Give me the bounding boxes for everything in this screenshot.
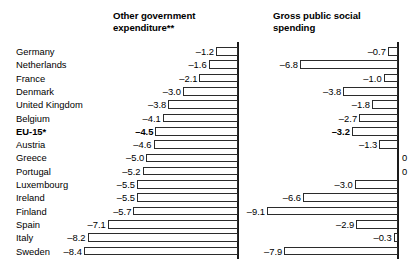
bar-value-panel-2: 0 [402, 165, 407, 178]
bar-value-panel-2: –6.8 [0, 58, 298, 71]
bar-value-panel-2: –0.3 [0, 231, 392, 244]
bar-panel-2 [267, 207, 398, 216]
bar-value-panel-1: –5.2 [0, 165, 141, 178]
bar-value-panel-2: –2.7 [0, 112, 357, 125]
table-row: Luxembourg–5.5–3.0 [0, 178, 420, 191]
bar-value-panel-2: –3.8 [0, 85, 341, 98]
bar-panel-2 [384, 74, 398, 83]
bar-panel-2 [388, 47, 398, 56]
bar-panel-2 [303, 193, 398, 202]
bar-panel-2 [343, 87, 398, 96]
table-row: Finland–5.7–9.1 [0, 205, 420, 218]
bar-value-panel-2: –6.6 [0, 191, 301, 204]
table-row: United Kingdom–3.8–1.8 [0, 98, 420, 111]
table-row: France–2.1–1.0 [0, 72, 420, 85]
table-row: Denmark–3.0–3.8 [0, 85, 420, 98]
panel-1-title: Other government expenditure** [113, 10, 263, 33]
table-row: Italy–8.2–0.3 [0, 231, 420, 244]
bar-panel-2 [300, 60, 398, 69]
bar-value-panel-2: –1.0 [0, 72, 382, 85]
chart-figure: Other government expenditure** Gross pub… [0, 0, 420, 269]
table-row: Austria–4.6–1.3 [0, 138, 420, 151]
bar-value-panel-2: –9.1 [0, 205, 265, 218]
table-row: Belgium–4.1–2.7 [0, 112, 420, 125]
table-row: Sweden–8.4–7.9 [0, 245, 420, 258]
bar-value-panel-2: –1.3 [0, 138, 377, 151]
bar-panel-2 [355, 180, 398, 189]
bar-value-panel-2: 0 [402, 151, 407, 164]
table-row: Spain–7.1–2.9 [0, 218, 420, 231]
bar-value-panel-2: –2.9 [0, 218, 354, 231]
table-row: Ireland–5.5–6.6 [0, 191, 420, 204]
bar-panel-2 [284, 247, 398, 256]
table-row: Portugal–5.20 [0, 165, 420, 178]
table-row: Germany–1.2–0.7 [0, 45, 420, 58]
bar-value-panel-2: –0.7 [0, 45, 386, 58]
bar-value-panel-2: –1.8 [0, 98, 370, 111]
table-row: Greece–5.00 [0, 151, 420, 164]
bar-value-panel-2: –3.2 [0, 125, 350, 138]
table-row: Netherlands–1.6–6.8 [0, 58, 420, 71]
bar-panel-2 [372, 100, 398, 109]
panel-2-title: Gross public social spending [273, 10, 413, 33]
bar-panel-2 [352, 127, 398, 136]
bar-panel-1 [146, 154, 238, 163]
bar-panel-2 [394, 233, 398, 242]
bar-panel-1 [143, 167, 238, 176]
bar-value-panel-2: –3.0 [0, 178, 353, 191]
bar-value-panel-2: –7.9 [0, 245, 282, 258]
bar-panel-2 [359, 114, 398, 123]
table-row: EU-15*–4.5–3.2 [0, 125, 420, 138]
bar-value-panel-1: –5.0 [0, 151, 144, 164]
bar-panel-2 [379, 140, 398, 149]
bar-panel-2 [356, 220, 398, 229]
